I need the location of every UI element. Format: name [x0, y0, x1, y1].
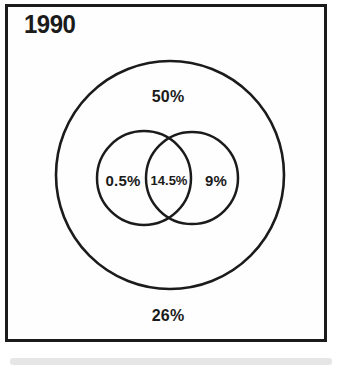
scan-artifact-band: [10, 358, 332, 365]
figure-1990-panel: 1990 50% 0.5% 14.5% 9% 26%: [0, 0, 342, 367]
label-right-circle-region: 9%: [205, 172, 227, 189]
label-left-circle-region: 0.5%: [106, 172, 141, 189]
label-intersection-region: 14.5%: [151, 173, 188, 188]
label-outer-region: 50%: [152, 88, 185, 106]
label-outside-region: 26%: [152, 307, 185, 325]
year-label: 1990: [24, 10, 75, 39]
